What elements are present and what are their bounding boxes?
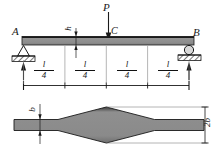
segment-2-denominator: 4 — [75, 71, 95, 80]
support-label-B: B — [193, 27, 200, 38]
dimension-segment-4: l 4 — [158, 60, 178, 80]
segment-1-denominator: 4 — [34, 71, 54, 80]
segment-4-denominator: 4 — [158, 71, 178, 80]
depth-label-h: h — [64, 26, 73, 31]
dimension-segment-2: l 4 — [75, 60, 95, 80]
dimension-segment-3: l 4 — [117, 60, 137, 80]
load-label-P: P — [103, 2, 110, 13]
segment-3-denominator: 4 — [117, 71, 137, 80]
dimension-segment-1: l 4 — [34, 60, 54, 80]
support-pin-A — [12, 46, 35, 62]
segment-4-numerator: l — [158, 60, 178, 69]
beam-plan-view — [14, 107, 204, 143]
load-point-label-C: C — [111, 26, 118, 36]
segment-3-numerator: l — [117, 60, 137, 69]
beam-diagram-figure: P C A B h l 4 l 4 l 4 l 4 b 2b — [0, 0, 218, 152]
plan-width-label-2b: 2b — [203, 118, 212, 127]
segment-1-numerator: l — [34, 60, 54, 69]
segment-2-numerator: l — [75, 60, 95, 69]
plan-width-label-b: b — [28, 107, 37, 112]
support-label-A: A — [12, 26, 19, 37]
diagram-canvas — [0, 0, 218, 152]
support-roller-B — [178, 45, 201, 60]
beam-elevation — [22, 37, 194, 46]
